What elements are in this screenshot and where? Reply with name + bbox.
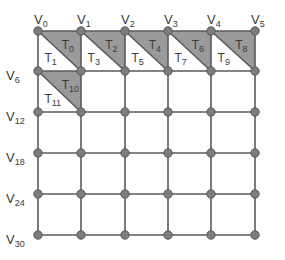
vertex-label-4: V4 [207,12,221,29]
vertex-label-18: V18 [6,150,25,167]
vertex-0 [34,27,42,35]
vertex-35 [251,231,259,239]
vertex-7 [77,67,85,75]
vertex-3 [164,27,172,35]
vertex-29 [251,190,259,198]
vertex-label-30: V30 [6,232,25,249]
vertex-label-24: V24 [6,191,25,208]
vertex-28 [207,190,215,198]
vertex-label-5: V5 [251,12,265,29]
vertex-4 [207,27,215,35]
vertex-34 [207,231,215,239]
vertex-label-6: V6 [6,68,20,85]
vertex-25 [77,190,85,198]
triangle-label-5: T5 [131,51,143,67]
vertex-32 [121,231,129,239]
vertex-11 [251,67,259,75]
vertex-30 [34,231,42,239]
vertex-26 [121,190,129,198]
vertex-13 [77,108,85,116]
vertex-label-12: V12 [6,109,25,126]
triangle-label-1: T1 [44,51,56,67]
vertex-8 [121,67,129,75]
vertex-33 [164,231,172,239]
vertex-24 [34,190,42,198]
vertex-14 [121,108,129,116]
mesh-diagram: T0T1T2T3T4T5T6T7T8T9T10T11 V0V1V2V3V4V5V… [0,0,285,260]
vertex-27 [164,190,172,198]
vertex-10 [207,67,215,75]
vertex-31 [77,231,85,239]
vertex-label-1: V1 [77,12,91,29]
triangle-label-9: T9 [218,51,230,67]
vertex-9 [164,67,172,75]
vertex-label-3: V3 [164,12,178,29]
vertex-label-0: V0 [34,12,48,29]
vertex-12 [34,108,42,116]
vertex-17 [251,108,259,116]
vertex-labels: V0V1V2V3V4V5V6V12V18V24V30 [6,12,265,249]
vertex-18 [34,149,42,157]
triangle-label-3: T3 [88,51,100,67]
vertex-5 [251,27,259,35]
vertex-19 [77,149,85,157]
vertex-6 [34,67,42,75]
vertex-label-2: V2 [121,12,135,29]
vertex-22 [207,149,215,157]
vertex-23 [251,149,259,157]
vertex-16 [207,108,215,116]
triangle-label-11: T11 [44,92,61,108]
triangle-label-7: T7 [174,51,186,67]
vertex-15 [164,108,172,116]
vertex-20 [121,149,129,157]
vertex-21 [164,149,172,157]
vertex-1 [77,27,85,35]
vertex-2 [121,27,129,35]
